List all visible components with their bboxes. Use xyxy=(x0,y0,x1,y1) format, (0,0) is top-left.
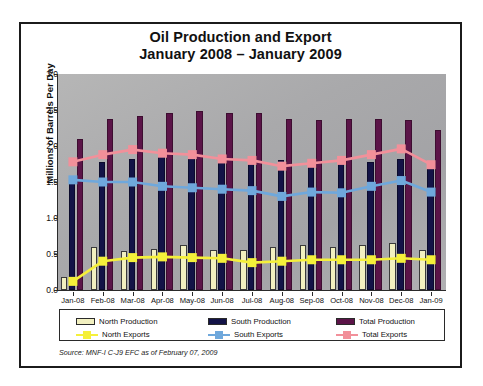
legend-label: South Exports xyxy=(234,330,283,339)
legend-item-south-production[interactable]: South Production xyxy=(208,315,291,327)
x-tick-label: Sep-08 xyxy=(299,296,324,305)
line-marker xyxy=(367,182,376,191)
plot-area xyxy=(58,74,446,290)
line-marker xyxy=(158,252,167,261)
line-marker xyxy=(277,162,286,171)
line-marker xyxy=(427,188,436,197)
line-marker xyxy=(337,188,346,197)
line-marker xyxy=(158,149,167,158)
x-tick-label: Mar-08 xyxy=(121,296,145,305)
line-marker xyxy=(337,255,346,264)
line-marker xyxy=(158,182,167,191)
legend-label: North Production xyxy=(99,317,158,326)
line-series-layer xyxy=(58,74,446,290)
legend-label: North Exports xyxy=(102,330,150,339)
line-marker xyxy=(128,178,137,187)
y-tick-label: 1.0 xyxy=(24,213,58,223)
line-marker xyxy=(277,257,286,266)
line-marker xyxy=(307,188,316,197)
x-axis-line xyxy=(57,290,446,291)
y-tick-label: 0.5 xyxy=(24,249,58,259)
line-marker xyxy=(218,254,227,263)
chart-figure-frame: Oil Production and Export January 2008 –… xyxy=(19,22,462,368)
y-tick-label: 3.0 xyxy=(24,69,58,79)
line-marker xyxy=(277,192,286,201)
y-tick-label: 2.0 xyxy=(24,141,58,151)
y-tick-label: 0.0 xyxy=(24,285,58,295)
line-marker xyxy=(188,183,197,192)
x-tick-label: May-08 xyxy=(180,296,205,305)
line-marker xyxy=(98,257,107,266)
line-marker xyxy=(427,160,436,169)
legend-item-south-exports[interactable]: South Exports xyxy=(208,328,283,340)
legend-label: Total Production xyxy=(359,317,415,326)
line-south-exports xyxy=(68,175,435,201)
line-marker xyxy=(397,144,406,153)
line-north-exports xyxy=(68,252,435,285)
line-marker xyxy=(248,258,257,267)
x-tick-label: Jan-08 xyxy=(61,296,84,305)
line-marker xyxy=(188,253,197,262)
x-tick-label: Jul-08 xyxy=(242,296,263,305)
line-marker xyxy=(68,277,77,286)
legend-swatch-bar-icon xyxy=(76,318,95,325)
line-marker xyxy=(397,254,406,263)
line-marker xyxy=(128,145,137,154)
line-marker xyxy=(218,185,227,194)
line-marker xyxy=(68,157,77,166)
x-axis-labels: Jan-08Feb-08Mar-08Apr-08May-08Jun-08Jul-… xyxy=(58,292,446,308)
legend-label: South Production xyxy=(231,317,291,326)
line-marker xyxy=(307,255,316,264)
plot-wrapper xyxy=(58,74,446,290)
x-tick-label: Aug-08 xyxy=(270,296,295,305)
legend-item-total-exports[interactable]: Total Exports xyxy=(336,328,407,340)
x-tick-label: Jan-09 xyxy=(419,296,442,305)
legend-item-north-exports[interactable]: North Exports xyxy=(76,328,150,340)
x-tick-label: Jun-08 xyxy=(211,296,234,305)
line-marker xyxy=(68,175,77,184)
chart-title-line-2: January 2008 – January 2009 xyxy=(21,46,460,63)
x-tick-label: Nov-08 xyxy=(359,296,383,305)
legend-label: Total Exports xyxy=(362,330,407,339)
line-total-exports xyxy=(68,144,435,170)
legend-line-marker xyxy=(343,331,351,339)
y-tick-label: 1.5 xyxy=(24,177,58,187)
line-marker xyxy=(218,154,227,163)
x-tick-label: Apr-08 xyxy=(151,296,174,305)
line-marker xyxy=(307,159,316,168)
legend-line-marker xyxy=(83,331,91,339)
x-tick-label: Dec-08 xyxy=(389,296,413,305)
line-marker xyxy=(98,178,107,187)
x-tick-label: Oct-08 xyxy=(330,296,353,305)
chart-legend: North ProductionSouth ProductionTotal Pr… xyxy=(59,309,445,341)
source-note: Source: MNF-I C-J9 EFC as of February 07… xyxy=(59,348,218,357)
legend-line-marker xyxy=(215,331,223,339)
line-marker xyxy=(248,186,257,195)
legend-swatch-bar-icon xyxy=(208,318,227,325)
y-axis-ticks: 0.00.51.01.52.02.53.0 xyxy=(21,74,58,290)
legend-swatch-line-icon xyxy=(76,330,98,339)
line-marker xyxy=(397,176,406,185)
line-marker xyxy=(128,253,137,262)
line-marker xyxy=(98,150,107,159)
chart-title: Oil Production and Export January 2008 –… xyxy=(21,29,460,63)
line-marker xyxy=(367,150,376,159)
legend-swatch-line-icon xyxy=(336,330,358,339)
line-marker xyxy=(427,255,436,264)
x-tick-label: Feb-08 xyxy=(91,296,115,305)
y-tick-label: 2.5 xyxy=(24,105,58,115)
line-marker xyxy=(248,156,257,165)
line-marker xyxy=(367,255,376,264)
chart-title-line-1: Oil Production and Export xyxy=(21,29,460,46)
legend-swatch-bar-icon xyxy=(336,318,355,325)
line-marker xyxy=(188,150,197,159)
legend-swatch-line-icon xyxy=(208,330,230,339)
legend-item-north-production[interactable]: North Production xyxy=(76,315,158,327)
line-marker xyxy=(337,156,346,165)
legend-item-total-production[interactable]: Total Production xyxy=(336,315,415,327)
